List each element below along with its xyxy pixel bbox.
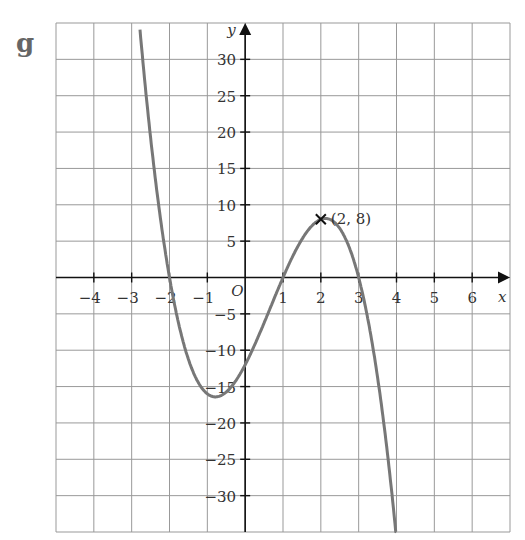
y-axis-label: y xyxy=(226,21,236,39)
x-tick-label: 5 xyxy=(430,289,440,307)
x-tick-label: 1 xyxy=(278,289,288,307)
y-tick-label: −25 xyxy=(205,451,237,469)
origin-label: O xyxy=(231,282,243,300)
x-tick-label: 6 xyxy=(467,289,477,307)
x-tick-label: −1 xyxy=(192,289,214,307)
y-tick-label: 5 xyxy=(227,233,237,251)
x-tick-label: 4 xyxy=(392,289,402,307)
point-label: (2, 8) xyxy=(331,210,371,228)
y-tick-label: 20 xyxy=(217,124,236,142)
y-tick-label: 30 xyxy=(217,51,236,69)
y-tick-label: 15 xyxy=(217,160,236,178)
x-tick-label: −3 xyxy=(117,289,139,307)
y-tick-label: −20 xyxy=(205,415,237,433)
x-tick-label: −4 xyxy=(79,289,101,307)
function-curve xyxy=(140,30,397,532)
graph-plot: −4−3−2−1123456−30−25−20−15−10−5510152025… xyxy=(0,0,525,540)
y-tick-label: −5 xyxy=(214,306,236,324)
part-label: g xyxy=(16,28,34,58)
y-tick-label: 10 xyxy=(217,197,236,215)
chart: −4−3−2−1123456−30−25−20−15−10−5510152025… xyxy=(0,0,525,540)
y-tick-label: −10 xyxy=(205,342,237,360)
x-axis-arrow-icon xyxy=(498,272,510,284)
y-axis-arrow-icon xyxy=(239,23,251,35)
y-tick-label: 25 xyxy=(217,88,236,106)
x-axis-label: x xyxy=(498,288,507,306)
x-tick-label: 2 xyxy=(316,289,326,307)
y-tick-label: −30 xyxy=(205,488,237,506)
